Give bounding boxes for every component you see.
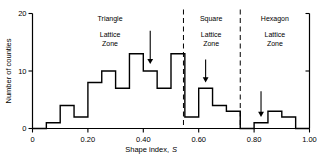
zone-label-group: SquareLatticeZone [200, 15, 223, 47]
x-tick-label: 0 [30, 135, 34, 144]
zone-label-name: Hexagon [261, 15, 289, 23]
peak-arrow [147, 31, 153, 64]
x-tick-label: 0.60 [191, 135, 206, 144]
x-axis-title: Shape index,S [125, 145, 177, 154]
zone-labels: TriangleLatticeZoneSquareLatticeZoneHexa… [98, 15, 289, 47]
histogram-figure: 0102000.200.400.600.801.00TriangleLattic… [0, 0, 324, 160]
x-axis-ticks: 00.200.400.600.801.00 [30, 129, 316, 144]
y-axis-title-text: Number of counties [4, 38, 13, 103]
zone-label-zone: Zone [267, 40, 283, 47]
y-axis-ticks: 01020 [18, 9, 309, 133]
zone-label-name: Triangle [98, 15, 123, 23]
x-tick-label: 1.00 [302, 135, 317, 144]
arrow-head [203, 77, 209, 82]
arrow-head [258, 112, 264, 117]
x-axis-title-symbol: S [172, 145, 177, 154]
x-tick-label: 0.80 [247, 135, 262, 144]
zone-label-zone: Zone [203, 40, 219, 47]
zone-label-zone: Zone [102, 40, 118, 47]
zone-label-lattice: Lattice [201, 31, 222, 38]
x-tick-label: 0.40 [136, 135, 151, 144]
zone-label-group: TriangleLatticeZone [98, 15, 123, 47]
arrow-head [147, 59, 153, 64]
zone-label-lattice: Lattice [265, 31, 286, 38]
zone-label-name: Square [200, 15, 223, 23]
y-tick-label: 20 [18, 9, 26, 18]
peak-arrow [258, 91, 264, 117]
y-tick-label: 0 [22, 124, 26, 133]
x-axis-title-text: Shape index, [125, 145, 169, 154]
shape-index-histogram: 0102000.200.400.600.801.00TriangleLattic… [0, 0, 324, 160]
zone-label-lattice: Lattice [100, 31, 121, 38]
x-tick-label: 0.20 [81, 135, 96, 144]
histogram-outline [33, 54, 310, 129]
peak-arrow [203, 60, 209, 83]
y-tick-label: 10 [18, 67, 26, 76]
zone-label-group: HexagonLatticeZone [261, 15, 289, 47]
